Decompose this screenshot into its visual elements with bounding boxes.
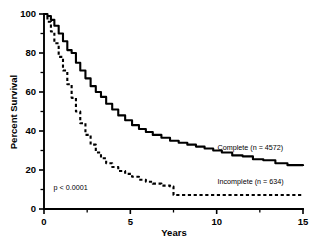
y-tick-label: 60 <box>25 86 36 97</box>
x-tick-label: 0 <box>41 216 46 227</box>
y-tick-label: 100 <box>20 8 36 19</box>
plot-background <box>0 0 320 241</box>
annotation-p-value: p < 0.0001 <box>53 183 87 192</box>
survival-chart-figure: 020406080100051015 Complete (n = 4572)In… <box>0 0 320 241</box>
y-axis-title: Percent Survival <box>8 75 19 149</box>
x-axis-title-group: Years <box>161 227 186 238</box>
x-tick-label: 10 <box>211 216 222 227</box>
series-label-0: Complete (n = 4572) <box>218 143 284 152</box>
x-axis-title: Years <box>161 227 186 238</box>
y-tick-label: 80 <box>25 47 36 58</box>
x-tick-label: 5 <box>128 216 134 227</box>
chart-annotations: p < 0.0001 <box>53 183 87 192</box>
kaplan-meier-plot: 020406080100051015 Complete (n = 4572)In… <box>0 0 320 241</box>
series-label-1: Incomplete (n = 634) <box>218 177 284 186</box>
y-tick-label: 20 <box>25 164 36 175</box>
y-tick-label: 0 <box>31 203 36 214</box>
y-axis-title-group: Percent Survival <box>8 75 19 149</box>
x-tick-label: 15 <box>298 216 309 227</box>
y-tick-label: 40 <box>25 125 36 136</box>
